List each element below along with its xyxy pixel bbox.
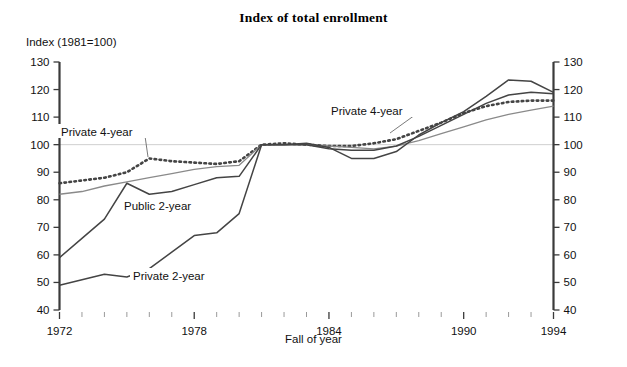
y-tick-label-right: 100 [564,139,583,151]
series-line-public-4-year [60,106,554,194]
series-line-private-2-year [60,92,554,285]
chart-plot-area: 4040505060607070808090901001001101101201… [0,0,627,367]
chart-root: Index of total enrollment Index (1981=10… [0,0,627,367]
x-tick-label: 1978 [181,325,207,337]
y-tick-label-left: 100 [30,139,49,151]
annotation-label-3: Private 2-year [133,270,205,282]
y-tick-label-right: 40 [564,304,577,316]
y-tick-label-right: 80 [564,194,577,206]
annotation-leader-line [145,136,148,157]
y-tick-label-left: 90 [37,166,50,178]
y-tick-label-right: 60 [564,249,577,261]
x-tick-label: 1990 [451,325,477,337]
y-tick-label-left: 110 [31,111,49,123]
y-tick-label-right: 130 [564,56,583,68]
x-tick-label: 1994 [541,325,567,337]
y-tick-label-right: 70 [564,221,577,233]
y-tick-label-right: 50 [564,276,577,288]
y-tick-label-left: 130 [30,56,49,68]
series-line-private-4-year [60,101,554,184]
annotation-leader-line [390,115,415,133]
y-tick-label-left: 70 [37,221,50,233]
y-tick-label-left: 60 [37,249,50,261]
y-tick-label-left: 120 [30,84,49,96]
y-tick-label-right: 120 [564,84,583,96]
x-tick-label: 1984 [316,325,342,337]
annotation-label-2: Public 2-year [124,200,191,212]
annotation-label-4: Private 4-year [331,105,403,117]
y-tick-label-left: 50 [37,276,50,288]
y-tick-label-right: 90 [564,166,577,178]
y-tick-label-left: 80 [37,194,50,206]
y-tick-label-right: 110 [564,111,582,123]
x-tick-label: 1972 [47,325,73,337]
annotation-label-1: Private 4-year [61,126,133,138]
y-tick-label-left: 40 [37,304,50,316]
